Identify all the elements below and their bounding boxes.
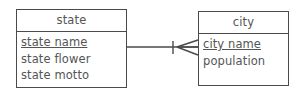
attribute-city-population: population [203, 53, 288, 70]
entity-title-city: city [199, 12, 288, 34]
entity-box-city[interactable]: city city name population [198, 11, 289, 86]
entity-box-state[interactable]: state state name state flower state mott… [16, 9, 127, 88]
relationship-connector-state-city[interactable] [120, 32, 204, 66]
entity-attributes-city: city name population [199, 34, 288, 71]
attribute-state-motto: state motto [21, 67, 126, 84]
attribute-city-name: city name [203, 36, 288, 53]
crows-foot-upper-prong [177, 40, 198, 47]
entity-attributes-state: state name state flower state motto [17, 32, 126, 86]
attribute-state-name: state name [21, 34, 126, 51]
attribute-state-flower: state flower [21, 51, 126, 68]
entity-title-state: state [17, 10, 126, 32]
er-diagram-canvas: state state name state flower state mott… [0, 0, 304, 97]
crows-foot-lower-prong [177, 47, 198, 55]
